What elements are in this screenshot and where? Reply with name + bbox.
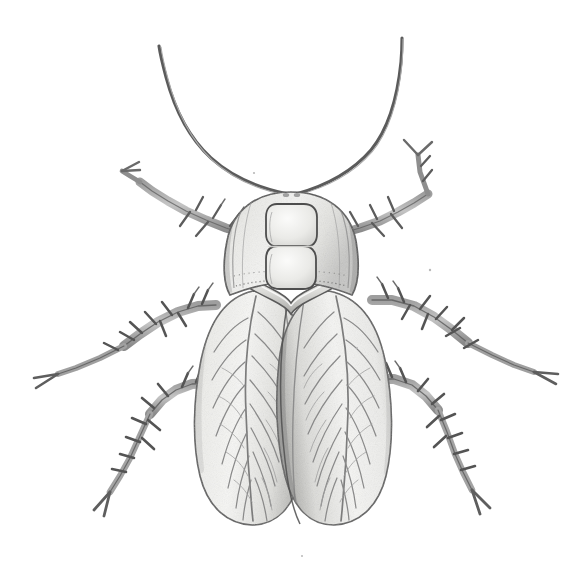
tegmen-right <box>277 291 392 525</box>
antenna-socket-left <box>283 193 289 197</box>
antenna-socket-right <box>294 193 300 197</box>
illustration-canvas: Dorsal view line illustration of a cockr… <box>0 0 582 567</box>
head-marking <box>266 204 317 289</box>
tegmina-group <box>194 291 391 525</box>
head <box>224 192 358 295</box>
head-marking-lower-spot <box>266 246 316 289</box>
insect-illustration <box>0 0 582 567</box>
head-marking-upper-spot <box>266 204 317 247</box>
